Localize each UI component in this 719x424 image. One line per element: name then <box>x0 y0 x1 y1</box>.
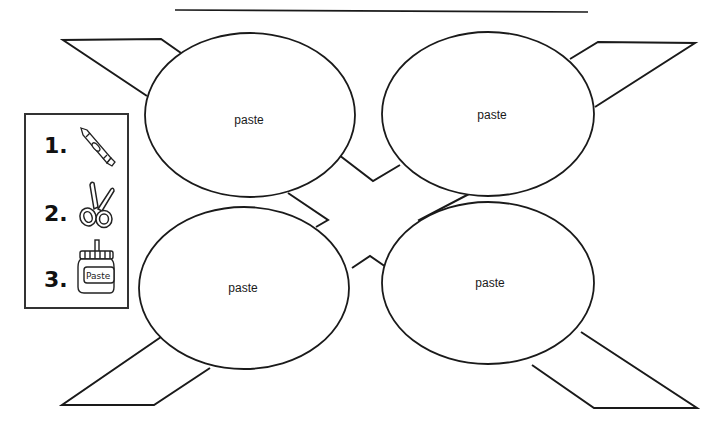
paste-label-top-left: paste <box>234 113 263 127</box>
name-line <box>175 10 588 12</box>
center-bottom-connector <box>352 256 386 268</box>
center-top-connector <box>339 155 400 181</box>
paste-jar-label: Paste <box>86 271 111 281</box>
step-1-number: 1. <box>44 133 68 158</box>
paste-jar-icon: Paste <box>76 239 116 297</box>
paste-label-bottom-right: paste <box>475 276 504 290</box>
instructions-box: 1. 2. 3. <box>24 113 129 309</box>
paste-label-top-right: paste <box>477 108 506 122</box>
scissors-icon <box>76 179 118 229</box>
step-2-number: 2. <box>44 201 68 226</box>
paste-label-bottom-left: paste <box>228 281 257 295</box>
step-3-number: 3. <box>44 267 68 292</box>
crayon-icon <box>78 125 118 170</box>
